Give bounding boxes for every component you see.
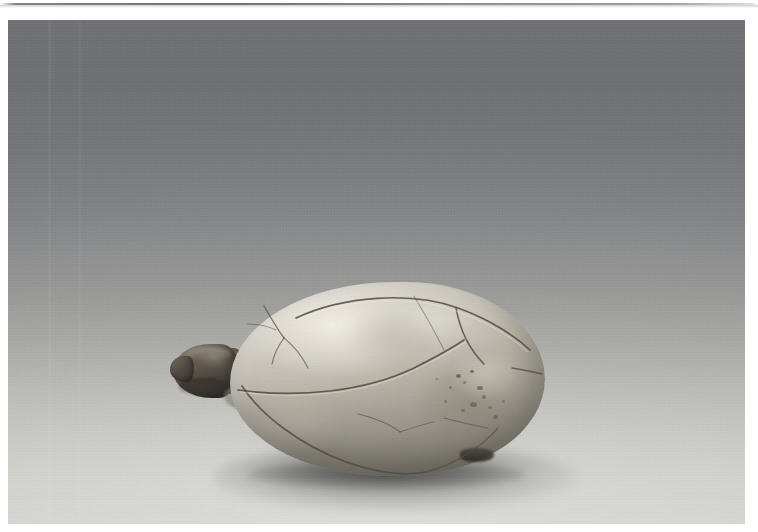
carapace-speck — [463, 381, 466, 384]
turtle-shell — [168, 272, 568, 487]
carapace-speck — [456, 374, 461, 378]
carapace-pale-patch — [454, 352, 516, 398]
carapace-speck — [493, 415, 498, 419]
carapace-blotch-left — [248, 392, 340, 452]
photograph — [8, 20, 745, 524]
carapace-speck — [502, 400, 505, 403]
carapace-body — [230, 282, 545, 476]
carapace-speck — [470, 370, 474, 373]
carapace-speck — [477, 386, 483, 390]
carapace-speck — [470, 402, 477, 407]
carapace-speck — [488, 406, 492, 409]
carapace-speck — [449, 386, 452, 389]
carapace-speck — [422, 362, 425, 364]
turtle-head-highlight — [187, 347, 231, 361]
page-top-rule-shadow — [0, 5, 758, 8]
carapace-speck — [435, 378, 438, 380]
page-root — [0, 0, 758, 532]
turtle-tail — [460, 448, 494, 462]
carapace-speck — [444, 400, 447, 403]
carapace-speck — [461, 409, 465, 412]
carapace-blotch-upper — [350, 312, 434, 362]
carapace-speck — [482, 395, 486, 399]
turtle-jaw-shadow — [179, 378, 225, 396]
